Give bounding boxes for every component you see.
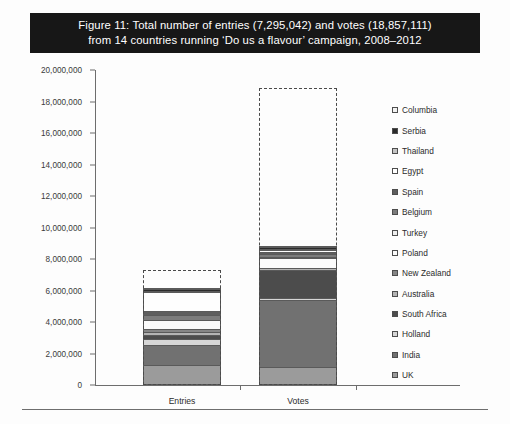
legend-item-label: Australia (402, 289, 434, 299)
legend-swatch-icon (392, 107, 398, 113)
y-axis-tick-mark (90, 101, 95, 102)
legend-item-label: Spain (402, 187, 423, 197)
y-axis-tick-label: 18,000,000 (41, 97, 82, 106)
figure-title-banner: Figure 11: Total number of entries (7,29… (30, 13, 480, 53)
legend-item-india[interactable]: India (392, 345, 508, 365)
legend-item-label: Thailand (402, 146, 434, 156)
y-axis-tick-label: 12,000,000 (41, 192, 82, 201)
y-axis-line (95, 70, 96, 385)
y-axis-tick-label: 14,000,000 (41, 160, 82, 169)
legend-item-egypt[interactable]: Egypt (392, 161, 508, 181)
legend-item-columbia[interactable]: Columbia (392, 100, 508, 120)
legend-swatch-icon (392, 311, 398, 317)
legend-item-label: UK (402, 370, 414, 380)
legend-swatch-icon (392, 250, 398, 256)
legend-item-turkey[interactable]: Turkey (392, 222, 508, 242)
legend-swatch-icon (392, 189, 398, 195)
legend-swatch-icon (392, 209, 398, 215)
total-outline-entries (143, 270, 221, 385)
legend-swatch-icon (392, 168, 398, 174)
y-axis-tick-mark (90, 196, 95, 197)
figure-bottom-rule (22, 409, 488, 410)
y-axis-tick-label: 4,000,000 (46, 318, 82, 327)
figure-title-line-2: from 14 countries running ‘Do us a flavo… (88, 33, 421, 48)
legend-item-thailand[interactable]: Thailand (392, 141, 508, 161)
x-axis-tick-mark (356, 385, 357, 390)
legend-item-south-africa[interactable]: South Africa (392, 304, 508, 324)
y-axis-tick-mark (90, 385, 95, 386)
bar-stack-votes[interactable] (259, 70, 337, 385)
y-axis-tick-mark (90, 259, 95, 260)
legend-item-new-zealand[interactable]: New Zealand (392, 263, 508, 283)
y-axis-tick-labels: 02,000,0004,000,0006,000,0008,000,00010,… (20, 60, 90, 400)
y-axis-tick-label: 10,000,000 (41, 223, 82, 232)
legend-item-label: Serbia (402, 126, 426, 136)
bar-stack-entries[interactable] (143, 70, 221, 385)
legend-item-label: India (402, 350, 420, 360)
legend-swatch-icon (392, 352, 398, 358)
legend-item-label: Belgium (402, 207, 432, 217)
legend-item-label: Turkey (402, 228, 427, 238)
x-axis-label-votes: Votes (287, 396, 309, 406)
legend-swatch-icon (392, 230, 398, 236)
y-axis-tick-mark (90, 227, 95, 228)
legend-item-label: Columbia (402, 105, 437, 115)
legend-swatch-icon (392, 148, 398, 154)
legend-item-serbia[interactable]: Serbia (392, 120, 508, 140)
y-axis-tick-mark (90, 322, 95, 323)
chart-legend: ColumbiaSerbiaThailandEgyptSpainBelgiumT… (392, 100, 508, 385)
y-axis-tick-label: 0 (77, 381, 82, 390)
legend-item-label: Holland (402, 329, 430, 339)
y-axis-tick-mark (90, 164, 95, 165)
legend-item-label: South Africa (402, 309, 447, 319)
legend-item-uk[interactable]: UK (392, 365, 508, 385)
figure-container: Figure 11: Total number of entries (7,29… (0, 0, 510, 424)
legend-item-label: New Zealand (402, 268, 451, 278)
x-axis-label-entries: Entries (169, 396, 196, 406)
legend-swatch-icon (392, 331, 398, 337)
y-axis-tick-mark (90, 353, 95, 354)
legend-swatch-icon (392, 270, 398, 276)
y-axis-tick-label: 8,000,000 (46, 255, 82, 264)
total-outline-votes (259, 88, 337, 385)
y-axis-tick-mark (90, 290, 95, 291)
y-axis-tick-mark (90, 133, 95, 134)
legend-item-holland[interactable]: Holland (392, 324, 508, 344)
figure-title-line-1: Figure 11: Total number of entries (7,29… (78, 18, 431, 33)
legend-item-poland[interactable]: Poland (392, 243, 508, 263)
legend-item-australia[interactable]: Australia (392, 284, 508, 304)
legend-swatch-icon (392, 372, 398, 378)
legend-item-label: Poland (402, 248, 428, 258)
legend-swatch-icon (392, 128, 398, 134)
legend-item-belgium[interactable]: Belgium (392, 202, 508, 222)
y-axis-tick-label: 2,000,000 (46, 349, 82, 358)
y-axis-tick-label: 6,000,000 (46, 286, 82, 295)
y-axis-tick-label: 20,000,000 (41, 66, 82, 75)
legend-item-label: Egypt (402, 166, 423, 176)
y-axis-tick-mark (90, 70, 95, 71)
y-axis-tick-label: 16,000,000 (41, 129, 82, 138)
legend-item-spain[interactable]: Spain (392, 182, 508, 202)
x-axis-tick-mark (240, 385, 241, 390)
legend-swatch-icon (392, 291, 398, 297)
